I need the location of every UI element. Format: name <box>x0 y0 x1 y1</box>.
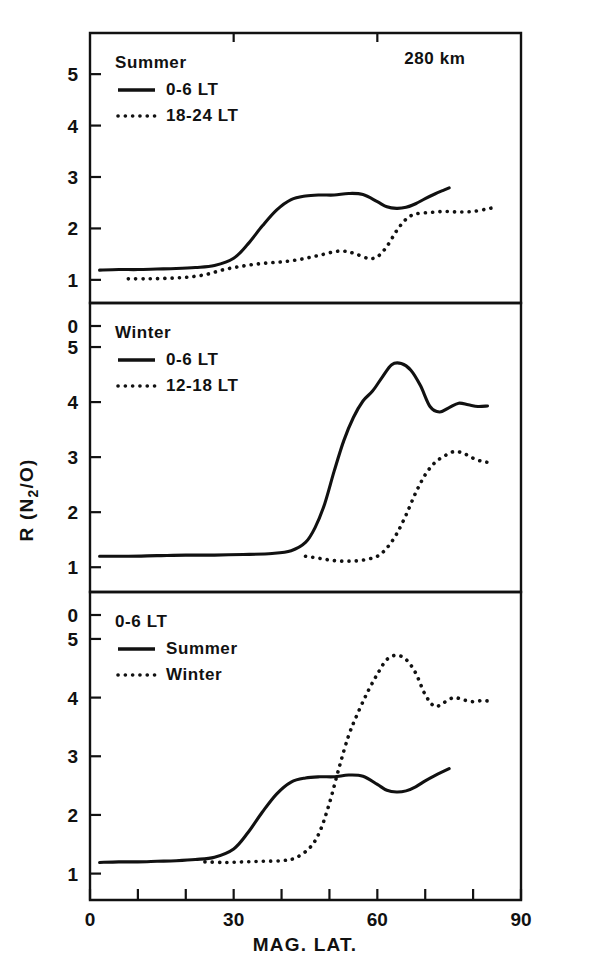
y-tick-label: 2 <box>67 502 78 523</box>
y-axis-title-tail: /O) <box>16 459 37 489</box>
legend-label: Summer <box>166 639 238 658</box>
y-tick-label: 3 <box>67 447 78 468</box>
legend-label: 18-24 LT <box>166 106 239 125</box>
series-summer <box>100 769 450 863</box>
panel-legend-title: 0-6 LT <box>115 612 167 631</box>
panel-combined-0-6-lt: 123450-6 LTSummerWinter <box>67 592 521 900</box>
panel-legend-title: Summer <box>115 53 187 72</box>
panel-winter: 123450Winter0-6 LT12-18 LT <box>67 303 521 626</box>
panel-legend-title: Winter <box>115 323 171 342</box>
series-0-6-lt <box>100 363 488 556</box>
panel-summer: 123450Summer0-6 LT18-24 LT <box>67 33 521 337</box>
legend-label: Winter <box>166 665 222 684</box>
svg-text:R (N2/O): R (N2/O) <box>16 459 41 542</box>
y-tick-label: 4 <box>67 116 78 137</box>
y-tick-label-zero: 0 <box>67 605 78 626</box>
y-tick-label: 1 <box>67 557 78 578</box>
x-tick-label: 90 <box>510 909 531 930</box>
legend-label: 0-6 LT <box>166 350 218 369</box>
panel-frame <box>90 33 521 303</box>
y-axis-title-subscript: 2 <box>25 489 41 498</box>
series-0-6-lt <box>100 188 450 270</box>
figure-root: R (N2/O) MAG. LAT. 123450Summer0-6 LT18-… <box>0 0 595 976</box>
x-tick-label: 0 <box>85 909 96 930</box>
x-tick-label: 30 <box>223 909 244 930</box>
y-tick-label: 1 <box>67 864 78 885</box>
chart-svg: R (N2/O) MAG. LAT. 123450Summer0-6 LT18-… <box>0 0 595 976</box>
x-axis: 0306090 <box>85 889 532 930</box>
y-tick-label-zero: 0 <box>67 316 78 337</box>
panel-frame <box>90 592 521 900</box>
y-tick-label: 5 <box>67 337 78 358</box>
y-tick-label: 5 <box>67 629 78 650</box>
y-tick-label: 3 <box>67 167 78 188</box>
legend-label: 12-18 LT <box>166 376 239 395</box>
y-axis-title-main: R (N <box>16 498 37 542</box>
panel-group: 123450Summer0-6 LT18-24 LT123450Winter0-… <box>67 33 521 900</box>
x-tick-label: 60 <box>367 909 388 930</box>
x-axis-title: MAG. LAT. <box>253 934 357 955</box>
y-axis-title: R (N2/O) <box>16 459 41 542</box>
y-tick-label: 1 <box>67 270 78 291</box>
legend-label: 0-6 LT <box>166 80 218 99</box>
panel-frame <box>90 303 521 592</box>
y-tick-label: 2 <box>67 805 78 826</box>
y-tick-label: 4 <box>67 688 78 709</box>
altitude-annotation: 280 km <box>404 49 465 68</box>
y-tick-label: 2 <box>67 218 78 239</box>
y-tick-label: 5 <box>67 64 78 85</box>
y-tick-label: 4 <box>67 392 78 413</box>
y-tick-label: 3 <box>67 746 78 767</box>
